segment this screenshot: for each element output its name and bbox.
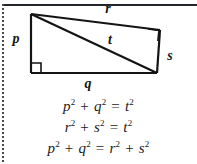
eq1-term-p: p <box>63 98 71 114</box>
geometry-diagram: p q r s t <box>0 0 197 96</box>
eq2-exp-s: 2 <box>100 118 105 128</box>
right-angle-mark-top-right <box>148 29 159 41</box>
figure-page: p q r s t p2 + q2 = t2 r2 + s2 = t2 p2 +… <box>0 0 197 164</box>
eq1-term-q: q <box>94 98 102 114</box>
eq3-exp-s: 2 <box>145 139 150 149</box>
eq1-equals: = <box>110 98 121 114</box>
eq2-exp-r: 2 <box>71 118 76 128</box>
eq3-plus-2: + <box>124 140 135 156</box>
eq3-equals: = <box>95 140 106 156</box>
equation-3: p2 + q2 = r2 + s2 <box>0 138 197 159</box>
eq3-exp-p: 2 <box>55 139 60 149</box>
right-angle-mark-bottom-left <box>31 63 41 73</box>
eq2-equals: = <box>109 119 120 135</box>
eq3-exp-q: 2 <box>86 139 91 149</box>
eq2-plus: + <box>79 119 90 135</box>
label-q: q <box>85 76 92 91</box>
eq3-term-q: q <box>78 140 86 156</box>
eq2-exp-t: 2 <box>128 118 133 128</box>
equation-1: p2 + q2 = t2 <box>0 96 197 117</box>
eq1-plus: + <box>79 98 90 114</box>
label-s: s <box>166 48 173 63</box>
label-r: r <box>105 1 111 16</box>
eq1-exp-q: 2 <box>102 97 107 107</box>
equation-list: p2 + q2 = t2 r2 + s2 = t2 p2 + q2 = r2 +… <box>0 96 197 159</box>
eq1-exp-p: 2 <box>71 97 76 107</box>
eq3-plus-1: + <box>64 140 75 156</box>
equation-2: r2 + s2 = t2 <box>0 117 197 138</box>
eq3-exp-r: 2 <box>115 139 120 149</box>
label-p: p <box>12 31 20 46</box>
label-t: t <box>108 32 113 47</box>
eq1-exp-t: 2 <box>129 97 134 107</box>
